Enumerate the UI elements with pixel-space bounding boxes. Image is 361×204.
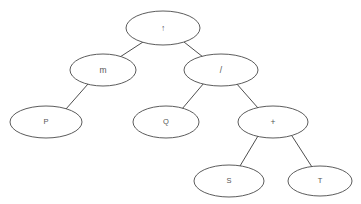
tree-canvas: ↑m/PQ+ST bbox=[0, 0, 361, 204]
node-ellipse[interactable] bbox=[194, 165, 264, 197]
tree-edge bbox=[236, 83, 258, 108]
tree-edge bbox=[292, 136, 312, 167]
node-ellipse[interactable] bbox=[10, 106, 82, 138]
node-ellipse[interactable] bbox=[70, 54, 136, 86]
node-group: ↑m/PQ+ST bbox=[10, 11, 352, 197]
tree-edge bbox=[240, 136, 258, 166]
node-ellipse[interactable] bbox=[238, 106, 308, 138]
tree-edge bbox=[66, 84, 88, 109]
tree-node[interactable]: ↑ bbox=[126, 11, 200, 45]
tree-node[interactable]: + bbox=[238, 106, 308, 138]
tree-node[interactable]: / bbox=[184, 54, 258, 86]
tree-edge bbox=[182, 83, 204, 109]
tree-node[interactable]: T bbox=[288, 166, 352, 196]
tree-node[interactable]: m bbox=[70, 54, 136, 86]
node-ellipse[interactable] bbox=[126, 11, 200, 45]
node-ellipse[interactable] bbox=[288, 166, 352, 196]
tree-node[interactable]: Q bbox=[133, 106, 199, 138]
node-ellipse[interactable] bbox=[133, 106, 199, 138]
node-ellipse[interactable] bbox=[184, 54, 258, 86]
tree-node[interactable]: P bbox=[10, 106, 82, 138]
tree-edge bbox=[120, 42, 143, 57]
expression-tree-diagram: ↑m/PQ+ST bbox=[0, 0, 361, 204]
tree-node[interactable]: S bbox=[194, 165, 264, 197]
tree-edge bbox=[184, 42, 203, 57]
